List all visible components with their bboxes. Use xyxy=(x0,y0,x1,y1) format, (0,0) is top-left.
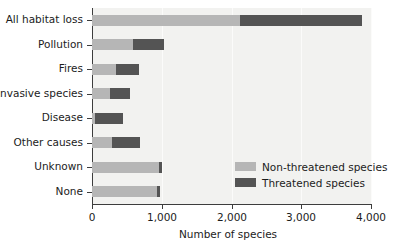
bar-segment xyxy=(92,39,133,50)
y-axis-label: Other causes xyxy=(14,137,83,148)
bar-segment xyxy=(110,88,130,99)
x-axis-tick-label: 1,000 xyxy=(147,211,177,223)
legend-entry: Non-threatened species xyxy=(235,160,387,173)
bar-segment xyxy=(92,64,116,75)
y-axis-tick xyxy=(87,167,92,168)
y-axis-label: Pollution xyxy=(38,39,83,50)
y-axis-tick xyxy=(87,94,92,95)
bar-segment xyxy=(157,186,160,197)
y-axis-tick xyxy=(87,192,92,193)
y-axis-tick xyxy=(87,118,92,119)
y-axis-label: Unknown xyxy=(34,161,83,172)
x-axis-tick xyxy=(232,204,233,209)
x-axis-tick-label: 3,000 xyxy=(286,211,316,223)
x-axis-tick xyxy=(92,204,93,209)
x-axis-tick-label: 0 xyxy=(89,211,96,223)
legend-swatch xyxy=(235,162,256,171)
bar-segment xyxy=(95,113,123,124)
y-axis-label: None xyxy=(56,186,83,197)
x-axis-tick-label: 4,000 xyxy=(356,211,386,223)
y-axis-tick xyxy=(87,45,92,46)
y-axis-label: Invasive species xyxy=(0,88,83,99)
bar-segment xyxy=(92,162,159,173)
gridline xyxy=(232,8,233,204)
bar-segment xyxy=(240,15,362,26)
bar-segment xyxy=(159,162,162,173)
gridline xyxy=(162,8,163,204)
bar-segment xyxy=(92,186,157,197)
chart-legend: Non-threatened speciesThreatened species xyxy=(235,160,387,192)
legend-entry: Threatened species xyxy=(235,176,387,189)
x-axis-tick xyxy=(371,204,372,209)
bar-segment xyxy=(92,15,240,26)
bar-segment xyxy=(92,88,110,99)
y-axis-label: Fires xyxy=(59,63,83,74)
y-axis-tick xyxy=(87,143,92,144)
legend-swatch xyxy=(235,178,256,187)
y-axis-line xyxy=(92,8,93,204)
bar-segment xyxy=(112,137,140,148)
x-axis-title: Number of species xyxy=(0,228,400,240)
x-axis-tick-label: 2,000 xyxy=(217,211,247,223)
x-axis-title-text: Number of species xyxy=(179,228,277,240)
y-axis-label: All habitat loss xyxy=(6,14,83,25)
bar-segment xyxy=(133,39,164,50)
bar-chart: All habitat lossPollutionFiresInvasive s… xyxy=(0,0,400,249)
x-axis-tick xyxy=(301,204,302,209)
x-axis-tick xyxy=(162,204,163,209)
legend-label: Threatened species xyxy=(262,177,365,189)
y-axis-label: Disease xyxy=(42,112,83,123)
bar-segment xyxy=(92,137,112,148)
y-axis-tick xyxy=(87,69,92,70)
legend-label: Non-threatened species xyxy=(262,161,387,173)
bar-segment xyxy=(116,64,139,75)
y-axis-tick xyxy=(87,20,92,21)
